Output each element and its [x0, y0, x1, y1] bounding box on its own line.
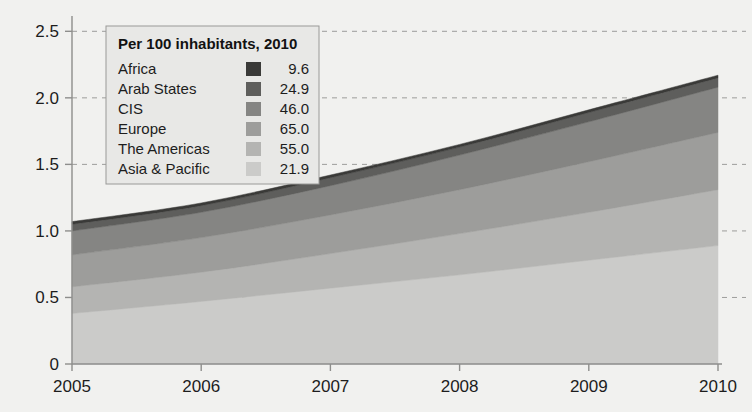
x-tick-label-3: 2008: [441, 377, 479, 396]
legend-swatch-cis: [246, 102, 261, 116]
legend-swatch-asia-pacific: [246, 162, 261, 176]
y-tick-label-1: 0.5: [35, 288, 59, 307]
x-tick-label-0: 2005: [53, 377, 91, 396]
y-tick-label-4: 2.0: [35, 89, 59, 108]
legend-swatch-europe: [246, 122, 261, 136]
y-tick-label-3: 1.5: [35, 155, 59, 174]
legend-label-asia-pacific: Asia & Pacific: [118, 160, 210, 177]
y-tick-label-0: 0: [50, 355, 59, 374]
x-tick-label-2: 2007: [311, 377, 349, 396]
legend-title: Per 100 inhabitants, 2010: [118, 35, 297, 52]
legend-label-the-americas: The Americas: [118, 140, 210, 157]
chart-canvas: 00.51.01.52.02.5 20052006200720082009201…: [0, 0, 752, 412]
legend-value-europe: 65.0: [280, 120, 309, 137]
legend-value-arab-states: 24.9: [280, 80, 309, 97]
legend-label-arab-states: Arab States: [118, 80, 196, 97]
legend-label-europe: Europe: [118, 120, 166, 137]
x-tick-label-4: 2009: [570, 377, 608, 396]
legend-label-cis: CIS: [118, 100, 143, 117]
legend-swatch-the-americas: [246, 142, 261, 156]
legend-value-cis: 46.0: [280, 100, 309, 117]
y-tick-label-2: 1.0: [35, 222, 59, 241]
legend-swatch-africa: [246, 62, 261, 76]
x-tick-label-1: 2006: [182, 377, 220, 396]
chart-legend: Per 100 inhabitants, 2010Africa9.6Arab S…: [106, 26, 319, 184]
legend-label-africa: Africa: [118, 60, 157, 77]
legend-value-africa: 9.6: [288, 60, 309, 77]
legend-value-the-americas: 55.0: [280, 140, 309, 157]
x-tick-label-5: 2010: [699, 377, 737, 396]
stacked-area-chart: 00.51.01.52.02.5 20052006200720082009201…: [0, 0, 752, 412]
legend-value-asia-pacific: 21.9: [280, 160, 309, 177]
y-tick-label-5: 2.5: [35, 22, 59, 41]
legend-swatch-arab-states: [246, 82, 261, 96]
